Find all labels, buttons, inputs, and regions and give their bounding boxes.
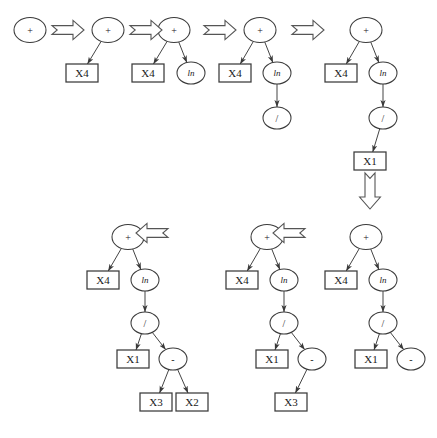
node-label: X4 — [235, 274, 249, 286]
node-label: X1 — [265, 353, 278, 365]
step-7-leaf-x3: X3 — [275, 393, 307, 411]
node-label: - — [171, 354, 174, 365]
node-label: ln — [187, 68, 195, 78]
step-4-node-divide: / — [263, 107, 291, 129]
tree-edge — [295, 369, 307, 393]
node-label: + — [105, 25, 111, 36]
tree-edge — [178, 369, 188, 393]
step-8-leaf-x4: X4 — [87, 271, 119, 289]
step-7-node-divide: / — [270, 312, 298, 334]
node-label: / — [283, 318, 286, 329]
tree-edge — [371, 42, 379, 63]
step-8-leaf-x2: X2 — [176, 393, 208, 411]
step-8-node-minus: - — [159, 348, 187, 370]
node-label: / — [276, 113, 279, 124]
node-label: ln — [379, 275, 387, 285]
tree-edge — [346, 248, 359, 271]
step-5-root-plus: + — [350, 18, 382, 43]
node-label: X4 — [334, 274, 348, 286]
tree-edge — [136, 334, 141, 350]
node-label: + — [257, 25, 263, 36]
node-label: X1 — [126, 353, 139, 365]
node-label: X3 — [149, 396, 163, 408]
tree-edges-layer — [87, 41, 403, 393]
step-4-node-ln: ln — [263, 62, 291, 84]
step-6-leaf-x4: X4 — [325, 271, 357, 289]
tree-edge — [373, 129, 380, 152]
tree-edge — [371, 249, 379, 270]
tree-nodes-layer: ++X4+X4ln+X4ln/+X4ln/X1+X4ln/X1-+X4ln/X1… — [14, 18, 425, 412]
step-8-node-ln: ln — [131, 269, 159, 291]
step-5-node-ln: ln — [369, 62, 397, 84]
tree-edge — [87, 41, 101, 64]
step-6-node-ln: ln — [369, 269, 397, 291]
node-label: X4 — [96, 274, 110, 286]
node-label: X1 — [363, 155, 376, 167]
diagram-canvas: ++X4+X4ln+X4ln/+X4ln/X1+X4ln/X1-+X4ln/X1… — [0, 0, 437, 438]
node-label: + — [363, 25, 369, 36]
step-3-node-ln: ln — [177, 62, 205, 84]
tree-edge — [291, 332, 304, 349]
step-1-root-plus: + — [14, 18, 46, 43]
node-label: X4 — [141, 67, 155, 79]
step-2-root-plus: + — [92, 18, 124, 43]
tree-edge — [374, 334, 379, 350]
step-6-leaf-x1: X1 — [355, 350, 387, 368]
node-label: X2 — [185, 396, 198, 408]
node-label: ln — [280, 275, 288, 285]
step-5-leaf-x4: X4 — [325, 64, 357, 82]
step-2-leaf-x4: X4 — [66, 64, 98, 82]
node-label: X4 — [75, 67, 89, 79]
node-label: X4 — [228, 67, 242, 79]
step-7-node-ln: ln — [270, 269, 298, 291]
node-label: ln — [273, 68, 281, 78]
node-label: + — [264, 232, 270, 243]
step-8-node-divide: / — [131, 312, 159, 334]
step-5-node-divide: / — [369, 107, 397, 129]
step-4-root-plus: + — [244, 18, 276, 43]
arrow-step5-to-step6 — [360, 173, 381, 209]
arrow-step2-to-step3 — [130, 20, 162, 39]
arrow-step3-to-step4 — [204, 20, 236, 39]
tree-edge — [153, 41, 167, 64]
step-6-node-minus: - — [397, 348, 425, 370]
node-label: + — [125, 232, 131, 243]
arrow-step4-to-step5 — [292, 20, 324, 39]
tree-edge — [272, 249, 280, 270]
node-label: + — [363, 232, 369, 243]
tree-edge — [265, 42, 273, 63]
tree-edge — [346, 41, 359, 64]
node-label: X1 — [364, 353, 377, 365]
tree-edge — [133, 249, 141, 270]
node-label: - — [409, 354, 412, 365]
step-6-node-divide: / — [369, 312, 397, 334]
step-8-leaf-x1: X1 — [117, 350, 149, 368]
node-label: ln — [141, 275, 149, 285]
tree-edge — [247, 248, 260, 271]
tree-edge — [160, 370, 169, 393]
step-6-root-plus: + — [350, 225, 382, 250]
tree-edge — [152, 332, 165, 349]
node-label: / — [144, 318, 147, 329]
tree-edge — [390, 332, 403, 349]
step-7-leaf-x4: X4 — [226, 271, 258, 289]
step-3-leaf-x4: X4 — [132, 64, 164, 82]
step-5-leaf-x1: X1 — [354, 152, 386, 170]
step-4-leaf-x4: X4 — [219, 64, 251, 82]
node-label: / — [382, 318, 385, 329]
expression-tree-diagram: ++X4+X4ln+X4ln/+X4ln/X1+X4ln/X1-+X4ln/X1… — [0, 0, 437, 438]
tree-edge — [275, 334, 280, 350]
node-label: X4 — [334, 67, 348, 79]
step-8-root-plus: + — [112, 225, 144, 250]
node-label: ln — [379, 68, 387, 78]
tree-edge — [240, 41, 253, 64]
node-label: - — [310, 354, 313, 365]
transition-arrows-layer — [52, 20, 380, 242]
step-7-leaf-x1: X1 — [256, 350, 288, 368]
arrow-step1-to-step2 — [52, 20, 84, 39]
tree-edge — [179, 42, 187, 63]
step-8-leaf-x3: X3 — [140, 393, 172, 411]
node-label: + — [171, 25, 177, 36]
node-label: + — [27, 25, 33, 36]
step-7-node-minus: - — [298, 348, 326, 370]
